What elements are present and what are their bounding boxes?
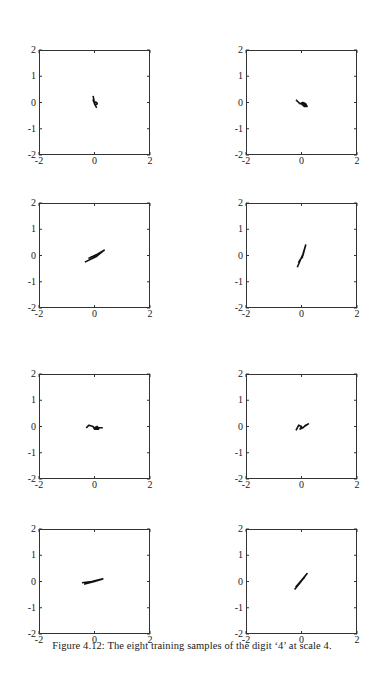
plot-panel-6: 210-1-2-202 (246, 374, 357, 479)
y-tick-label: 2 (22, 198, 36, 208)
plot-panel-7: 210-1-2-202 (39, 529, 150, 634)
y-tick-label: 1 (22, 395, 36, 405)
plot-panel-5: 210-1-2-202 (39, 374, 150, 479)
x-tick-label: 0 (295, 480, 309, 490)
y-tick-label: 1 (229, 71, 243, 81)
y-tick-label: -1 (22, 277, 36, 287)
y-tick-label: 0 (22, 98, 36, 108)
y-tick-label: 1 (229, 224, 243, 234)
x-tick-label: 2 (350, 480, 364, 490)
plot-area (246, 374, 357, 479)
y-tick-label: 2 (229, 524, 243, 534)
y-tick-label: -1 (229, 124, 243, 134)
y-tick-label: 2 (22, 524, 36, 534)
x-tick-label: -2 (239, 309, 253, 319)
axes-frame (40, 375, 150, 479)
plot-panel-3: 210-1-2-202 (39, 203, 150, 308)
x-tick-label: 2 (350, 156, 364, 166)
y-tick-label: -1 (229, 603, 243, 613)
y-tick-label: 0 (22, 577, 36, 587)
y-tick-label: -1 (22, 448, 36, 458)
x-tick-label: 2 (350, 309, 364, 319)
y-tick-label: 0 (229, 251, 243, 261)
x-tick-label: 2 (143, 309, 157, 319)
digit-trace (93, 96, 97, 108)
y-tick-label: 2 (229, 198, 243, 208)
x-tick-label: -2 (239, 156, 253, 166)
y-tick-label: 1 (229, 395, 243, 405)
x-tick-label: 0 (295, 156, 309, 166)
x-tick-label: 0 (295, 309, 309, 319)
x-tick-label: -2 (32, 480, 46, 490)
x-tick-label: -2 (32, 309, 46, 319)
plot-area (39, 529, 150, 634)
y-tick-label: -1 (229, 448, 243, 458)
plot-area (39, 374, 150, 479)
x-tick-label: 2 (143, 156, 157, 166)
plot-panel-4: 210-1-2-202 (246, 203, 357, 308)
y-tick-label: -1 (22, 603, 36, 613)
y-tick-label: 1 (22, 71, 36, 81)
x-tick-label: 0 (88, 309, 102, 319)
y-tick-label: 0 (229, 422, 243, 432)
y-tick-label: -1 (229, 277, 243, 287)
x-tick-label: -2 (32, 156, 46, 166)
y-tick-label: 2 (22, 45, 36, 55)
digit-trace (297, 245, 305, 267)
plot-panel-8: 210-1-2-202 (246, 529, 357, 634)
digit-trace (85, 250, 104, 262)
y-tick-label: 0 (22, 251, 36, 261)
digit-trace (296, 424, 308, 431)
y-tick-label: -1 (22, 124, 36, 134)
x-tick-label: 2 (143, 480, 157, 490)
plot-panel-1: 210-1-2-202 (39, 50, 150, 155)
plot-area (246, 529, 357, 634)
plot-area (246, 203, 357, 308)
digit-trace (296, 100, 307, 107)
plot-panel-2: 210-1-2-202 (246, 50, 357, 155)
x-tick-label: 0 (88, 480, 102, 490)
y-tick-label: 2 (229, 369, 243, 379)
y-tick-label: 1 (22, 550, 36, 560)
plot-area (39, 50, 150, 155)
x-tick-label: -2 (239, 480, 253, 490)
y-tick-label: 1 (229, 550, 243, 560)
digit-trace (86, 425, 103, 429)
digit-trace (82, 579, 103, 584)
plot-area (39, 203, 150, 308)
y-tick-label: 0 (229, 577, 243, 587)
digit-trace (295, 574, 308, 590)
y-tick-label: 2 (22, 369, 36, 379)
y-tick-label: 1 (22, 224, 36, 234)
y-tick-label: 2 (229, 45, 243, 55)
y-tick-label: 0 (22, 422, 36, 432)
plot-area (246, 50, 357, 155)
y-tick-label: 0 (229, 98, 243, 108)
x-tick-label: 0 (88, 156, 102, 166)
figure-caption: Figure 4.12: The eight training samples … (0, 640, 384, 651)
